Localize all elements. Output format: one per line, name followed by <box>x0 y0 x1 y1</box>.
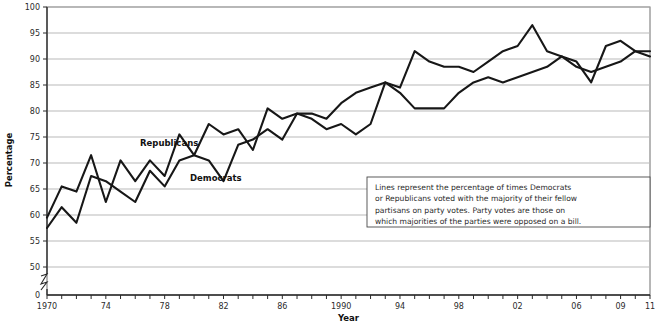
x-tick-label-1978: 78 <box>160 302 170 311</box>
x-tick-label-1990: 1990 <box>331 302 351 311</box>
x-tick-label-1970: 1970 <box>37 302 57 311</box>
y-tick-label-85: 85 <box>30 81 40 90</box>
chart-canvas: 5055606570758085909510001970747882861990… <box>0 0 661 331</box>
y-tick-label-75: 75 <box>30 133 40 142</box>
x-tick-label-2002: 02 <box>513 302 523 311</box>
y-tick-label-100: 100 <box>25 3 40 12</box>
x-tick-label-2011: 11 <box>645 302 655 311</box>
x-tick-label-1974: 74 <box>101 302 111 311</box>
series-label-republicans: Republicans <box>140 138 198 148</box>
x-axis-title: Year <box>337 313 360 323</box>
annotation-line-1: Lines represent the percentage of times … <box>375 183 571 192</box>
y-tick-label-0: 0 <box>35 291 40 300</box>
y-tick-label-50: 50 <box>30 263 40 272</box>
x-tick-label-2006: 06 <box>571 302 581 311</box>
y-tick-label-70: 70 <box>30 159 40 168</box>
series-label-democrats: Democrats <box>190 173 242 183</box>
y-axis-title: Percentage <box>4 132 14 187</box>
x-tick-label-1998: 98 <box>454 302 464 311</box>
x-tick-label-1986: 86 <box>277 302 287 311</box>
y-tick-label-60: 60 <box>30 211 40 220</box>
party-unity-line-chart: 5055606570758085909510001970747882861990… <box>0 0 661 331</box>
x-tick-label-1982: 82 <box>218 302 228 311</box>
y-tick-label-95: 95 <box>30 29 40 38</box>
y-axis-break-icon <box>41 274 47 290</box>
plot-frame <box>47 7 650 295</box>
x-tick-label-1994: 94 <box>395 302 405 311</box>
annotation-line-3: partisans on party votes. Party votes ar… <box>375 206 565 215</box>
y-tick-label-65: 65 <box>30 185 40 194</box>
y-tick-label-90: 90 <box>30 55 40 64</box>
y-tick-label-55: 55 <box>30 237 40 246</box>
annotation-line-4: which majorities of the parties were opp… <box>375 217 581 226</box>
annotation-line-2: or Republicans voted with the majority o… <box>375 194 577 203</box>
x-tick-label-2009: 09 <box>615 302 625 311</box>
y-tick-label-80: 80 <box>30 107 40 116</box>
